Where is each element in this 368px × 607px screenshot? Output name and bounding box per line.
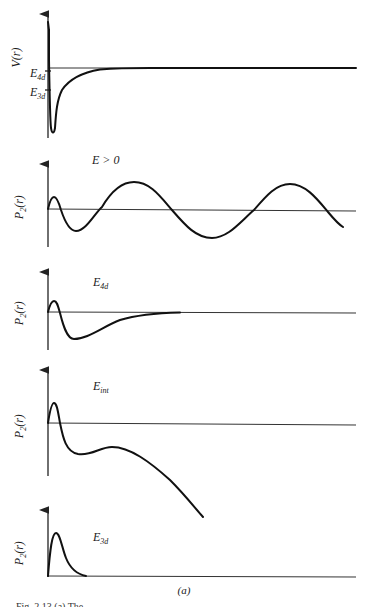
y-label-p2: P2(r) — [12, 541, 28, 565]
potential-curve — [49, 30, 356, 133]
figure: V(r) P2(r) P2(r) P2(r) P2(r) E4d E3d E >… — [0, 0, 368, 607]
y-label-sub: 2 — [19, 427, 28, 431]
zero-line — [48, 423, 356, 425]
zero-line — [48, 209, 356, 211]
subfigure-label: (a) — [0, 584, 368, 596]
y-label-p2: P2(r) — [12, 195, 28, 219]
y-label-potential: V(r) — [9, 48, 24, 68]
y-label-main: P — [12, 212, 26, 219]
figure-caption: Fig. 2.13 (a) The ... — [16, 600, 93, 607]
zero-line — [48, 576, 356, 577]
energy-sub: 4d — [100, 282, 108, 291]
energy-label-e3d: E3d — [93, 531, 108, 546]
y-label-tail: (r) — [12, 414, 26, 427]
wavefunction-curve — [48, 403, 203, 517]
y-label-p2: P2(r) — [12, 301, 28, 325]
panel-potential — [45, 14, 356, 138]
wavefunction-curve — [48, 533, 86, 576]
energy-sub: int — [100, 386, 108, 395]
y-label-main: P — [12, 431, 26, 438]
energy-sub: 3d — [100, 537, 108, 546]
y-label-tail: (r) — [12, 541, 26, 554]
y-label-sub: 2 — [19, 554, 28, 558]
energy-label-eint: Eint — [93, 380, 109, 395]
level-sub: 3d — [37, 92, 45, 101]
zero-line — [48, 312, 356, 313]
figure-plots — [0, 0, 368, 607]
potential-wall — [48, 22, 49, 30]
energy-label-e4d: E4d — [93, 276, 108, 291]
energy-label-positive: E > 0 — [92, 154, 119, 166]
y-label-main: P — [12, 318, 26, 325]
wavefunction-curve — [48, 301, 180, 339]
y-label-sub: 2 — [19, 314, 28, 318]
y-label-p2: P2(r) — [12, 414, 28, 438]
level-sub: 4d — [37, 73, 45, 82]
level-label-e3d: E3d — [30, 86, 45, 101]
y-label-main: P — [12, 558, 26, 565]
level-label-e4d: E4d — [30, 67, 45, 82]
panel-positive-energy — [48, 164, 356, 247]
y-label-sub: 2 — [19, 208, 28, 212]
y-label-tail: (r) — [12, 301, 26, 314]
y-label-tail: (r) — [12, 195, 26, 208]
